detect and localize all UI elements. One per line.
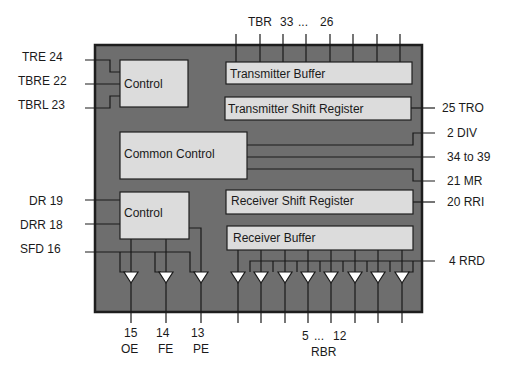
rx-control-label: Control — [124, 206, 163, 220]
pin-label-oe: OE — [121, 342, 138, 356]
pin-label-pe: PE — [193, 342, 209, 356]
receiver-buffer-label: Receiver Buffer — [233, 231, 315, 245]
pin-label-tre: TRE 24 — [22, 50, 63, 64]
transmitter-buffer-label: Transmitter Buffer — [230, 67, 325, 81]
pin-label-rrd: 4 RRD — [449, 254, 485, 268]
receiver-shift-register-block: Receiver Shift Register — [226, 190, 413, 214]
transmitter-shift-register-block: Transmitter Shift Register — [225, 97, 411, 120]
pin-label-rbr: RBR — [311, 345, 337, 359]
pin-num-rbr-to: 12 — [333, 329, 347, 343]
transmitter-buffer-block: Transmitter Buffer — [226, 62, 412, 84]
uart-block-diagram: Control Transmitter Buffer Transmitter S… — [0, 0, 505, 370]
pin-num-pe: 13 — [191, 326, 205, 340]
pin-label-mr: 21 MR — [447, 174, 483, 188]
receiver-buffer-block: Receiver Buffer — [227, 226, 413, 250]
transmitter-shift-register-label: Transmitter Shift Register — [228, 102, 364, 116]
pin-label-tbrl: TBRL 23 — [18, 98, 65, 112]
pin-label-tbr-to: 26 — [320, 15, 334, 29]
pin-label-drr: DRR 18 — [20, 218, 63, 232]
tx-control-block: Control — [120, 60, 188, 107]
common-control-block: Common Control — [120, 132, 247, 179]
pin-label-34-to-39: 34 to 39 — [447, 150, 491, 164]
pin-label-tbr: TBR — [248, 15, 272, 29]
pin-label-rri: 20 RRI — [447, 195, 484, 209]
common-control-label: Common Control — [124, 147, 215, 161]
pin-num-fe: 14 — [156, 326, 170, 340]
receiver-shift-register-label: Receiver Shift Register — [231, 194, 354, 208]
pin-num-rbr-dots: ... — [314, 329, 324, 343]
pin-num-rbr-from: 5 — [302, 329, 309, 343]
tx-control-label: Control — [124, 77, 163, 91]
pin-label-tro: 25 TRO — [442, 101, 484, 115]
pin-num-oe: 15 — [124, 326, 138, 340]
pin-label-dr: DR 19 — [29, 194, 63, 208]
pin-label-fe: FE — [158, 342, 173, 356]
pin-label-tbr-dots: ... — [298, 15, 308, 29]
pin-label-div: 2 DIV — [447, 126, 477, 140]
pin-label-sfd: SFD 16 — [20, 242, 61, 256]
pin-label-tbre: TBRE 22 — [18, 74, 67, 88]
pin-label-tbr-from: 33 — [280, 15, 294, 29]
rx-control-block: Control — [120, 192, 189, 239]
